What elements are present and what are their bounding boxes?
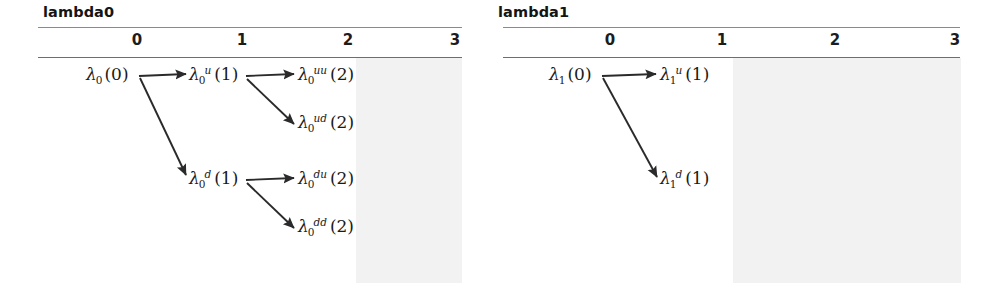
- column-header-lambda1-3: 3: [942, 31, 968, 49]
- node-lambda1-u: λ1u(1): [660, 66, 709, 83]
- panel-lambda1: lambda1 0 1 2 3 λ1(0) λ1u(1) λ1d(1): [490, 0, 1001, 295]
- panel-title-lambda0: lambda0: [43, 4, 114, 20]
- node-lambda1-root: λ1(0): [549, 66, 592, 83]
- node-lambda0-dd-superscript: dd: [313, 216, 326, 228]
- node-lambda0-ud-arg: (2): [330, 112, 354, 132]
- node-lambda1-d: λ1d(1): [660, 170, 709, 187]
- node-lambda0-u-arg: (1): [214, 64, 238, 84]
- node-lambda0-root: λ0(0): [86, 66, 129, 83]
- node-lambda0-du: λ0du(2): [298, 170, 354, 187]
- node-lambda0-du-superscript: du: [313, 168, 326, 180]
- column-header-lambda1-0: 0: [597, 31, 623, 49]
- header-rule-bottom-lambda1: [503, 57, 960, 58]
- node-lambda0-du-arg: (2): [330, 168, 354, 188]
- column-header-lambda0-2: 2: [335, 31, 361, 49]
- node-lambda0-uu-arg: (2): [330, 64, 354, 84]
- node-lambda0-d: λ0d(1): [189, 170, 238, 187]
- node-lambda0-ud-superscript: ud: [313, 112, 326, 124]
- node-lambda1-root-arg: (0): [567, 64, 591, 84]
- node-lambda1-u-arg: (1): [685, 64, 709, 84]
- node-lambda1-root-subscript: 1: [559, 74, 566, 86]
- node-lambda0-ud: λ0ud(2): [298, 114, 354, 131]
- node-lambda0-uu-superscript: uu: [313, 64, 327, 76]
- column-header-lambda0-0: 0: [124, 31, 150, 49]
- panel-lambda0: lambda0 0 1 2 3 λ0(0) λ0u(1) λ0d(1) λ0uu…: [0, 0, 500, 295]
- column-header-lambda0-3: 3: [442, 31, 468, 49]
- header-rule-top-lambda0: [38, 27, 462, 28]
- shaded-region-lambda0: [356, 58, 462, 283]
- node-lambda1-d-superscript: d: [675, 168, 682, 180]
- node-lambda0-uu: λ0uu(2): [298, 66, 354, 83]
- header-rule-bottom-lambda0: [38, 57, 462, 58]
- node-lambda0-d-arg: (1): [214, 168, 238, 188]
- header-rule-top-lambda1: [503, 27, 960, 28]
- column-header-lambda0-1: 1: [229, 31, 255, 49]
- node-lambda0-u: λ0u(1): [189, 66, 238, 83]
- shaded-region-lambda1: [733, 58, 961, 283]
- column-header-lambda1-2: 2: [822, 31, 848, 49]
- node-lambda0-root-subscript: 0: [96, 74, 103, 86]
- node-lambda1-u-superscript: u: [675, 64, 682, 76]
- column-header-lambda1-1: 1: [709, 31, 735, 49]
- node-lambda1-d-arg: (1): [685, 168, 709, 188]
- panel-title-lambda1: lambda1: [498, 4, 569, 20]
- node-lambda0-root-arg: (0): [104, 64, 128, 84]
- node-lambda0-d-superscript: d: [204, 168, 211, 180]
- node-lambda0-dd-arg: (2): [330, 216, 354, 236]
- node-lambda0-dd: λ0dd(2): [298, 218, 354, 235]
- node-lambda0-u-superscript: u: [204, 64, 211, 76]
